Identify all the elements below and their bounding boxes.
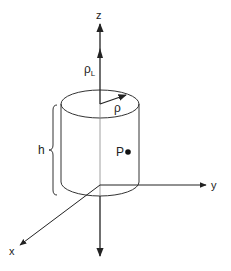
line-charge-arrow-icon bbox=[97, 48, 103, 58]
diagram-canvas: z ρL ρ h P y x bbox=[0, 0, 231, 271]
z-axis-label: z bbox=[96, 9, 102, 21]
point-p-label: P bbox=[116, 145, 124, 159]
y-axis-label: y bbox=[211, 179, 217, 191]
point-p-dot bbox=[125, 149, 131, 155]
radius-arrow bbox=[100, 95, 126, 104]
radius-label: ρ bbox=[114, 101, 121, 115]
z-axis bbox=[97, 24, 103, 256]
line-charge-subscript: L bbox=[91, 69, 96, 78]
line-charge-label: ρL bbox=[84, 62, 96, 78]
x-axis bbox=[20, 185, 100, 245]
height-brace bbox=[49, 105, 57, 195]
height-label: h bbox=[38, 143, 45, 157]
x-axis-label: x bbox=[9, 245, 15, 257]
